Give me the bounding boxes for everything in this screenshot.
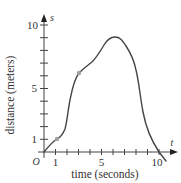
origin-label: O	[32, 156, 39, 167]
y-axis-title: distance (meters)	[4, 55, 17, 134]
x-axis-arrow-icon	[170, 149, 178, 155]
y-tick-label-1: 1	[32, 133, 38, 145]
x-tick-label-5: 5	[99, 156, 105, 168]
distance-time-chart: 1 5 10 t 1 5 10 s O time (seconds) dista…	[0, 0, 181, 183]
x-tick-label-10: 10	[152, 156, 164, 168]
highlight-point-2	[77, 71, 81, 75]
highlight-point-1	[55, 137, 59, 141]
y-tick-label-5: 5	[32, 82, 38, 94]
x-axis-title: time (seconds)	[71, 168, 139, 181]
distance-curve	[44, 37, 166, 161]
x-axis: 1 5 10 t	[38, 137, 178, 168]
y-tick-label-10: 10	[27, 19, 39, 31]
y-axis-arrow-icon	[41, 14, 47, 22]
y-axis-variable: s	[50, 12, 54, 23]
y-axis: 1 5 10 s	[27, 12, 54, 158]
x-tick-label-1: 1	[53, 156, 59, 168]
x-axis-variable: t	[171, 137, 174, 148]
